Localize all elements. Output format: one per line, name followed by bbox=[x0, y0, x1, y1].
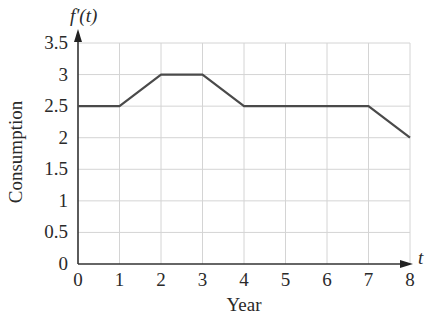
y-tick-labels: 00.511.522.533.5 bbox=[44, 32, 68, 274]
y-tick-label: 1.5 bbox=[44, 158, 68, 179]
x-tick-label: 1 bbox=[115, 269, 125, 290]
chart: 00.511.522.533.5 012345678 f'(t) t Year … bbox=[0, 0, 434, 328]
x-tick-label: 2 bbox=[156, 269, 166, 290]
x-tick-label: 3 bbox=[198, 269, 208, 290]
y-axis-title: Consumption bbox=[5, 100, 26, 203]
x-tick-label: 5 bbox=[281, 269, 291, 290]
y-tick-label: 0.5 bbox=[44, 221, 68, 242]
y-tick-label: 3.5 bbox=[44, 32, 68, 53]
x-tick-labels: 012345678 bbox=[73, 269, 415, 290]
x-tick-label: 6 bbox=[322, 269, 332, 290]
x-tick-label: 7 bbox=[364, 269, 374, 290]
y-tick-label: 0 bbox=[59, 253, 69, 274]
x-tick-label: 8 bbox=[405, 269, 415, 290]
x-tick-label: 4 bbox=[239, 269, 249, 290]
x-tick-label: 0 bbox=[73, 269, 83, 290]
y-tick-label: 1 bbox=[59, 190, 69, 211]
y-axis-function-label: f'(t) bbox=[70, 5, 97, 27]
grid-lines bbox=[78, 43, 410, 264]
y-tick-label: 3 bbox=[59, 64, 69, 85]
y-tick-label: 2.5 bbox=[44, 95, 68, 116]
y-axis-arrow-icon bbox=[74, 29, 82, 42]
x-axis-variable-label: t bbox=[418, 247, 424, 268]
x-axis-title: Year bbox=[226, 294, 262, 315]
y-tick-label: 2 bbox=[59, 127, 69, 148]
x-axis-arrow-icon bbox=[400, 260, 413, 268]
